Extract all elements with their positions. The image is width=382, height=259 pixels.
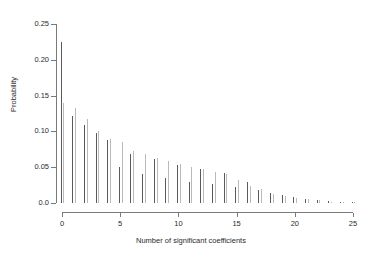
x-tick (178, 213, 179, 217)
x-tick-label: 15 (224, 219, 250, 228)
spike-bar (282, 195, 283, 203)
spike-bar (343, 202, 344, 203)
spike-bar (122, 142, 123, 203)
x-tick (120, 213, 121, 217)
spike-bar (133, 151, 134, 203)
spike-bar (340, 202, 341, 203)
x-axis-title: Number of significant coefficients (0, 236, 382, 245)
y-tick-label: 0.0 (18, 198, 49, 207)
spike-bar (258, 190, 259, 203)
x-tick (353, 213, 354, 217)
spike-bar (308, 199, 309, 203)
spike-bar (250, 186, 251, 203)
spike-bar (84, 125, 85, 203)
spike-bar (354, 202, 355, 203)
x-tick (237, 213, 238, 217)
y-tick-label: 0.10 (18, 126, 49, 135)
spike-bar (96, 133, 97, 203)
spike-bar (110, 139, 111, 203)
y-tick-label: 0.25 (18, 19, 49, 28)
chart-figure: 0510152025 0.00.050.100.150.200.25 Numbe… (0, 0, 382, 259)
spike-bar (317, 200, 318, 203)
spike-bar (168, 161, 169, 203)
x-tick (62, 213, 63, 217)
y-tick (51, 167, 56, 168)
spike-bar (87, 119, 88, 203)
spike-bar (142, 174, 143, 203)
spike-bar (296, 198, 297, 203)
spike-bar (224, 173, 225, 203)
y-tick-label: 0.15 (18, 91, 49, 100)
y-axis-title: Probability (9, 60, 18, 130)
spike-bar (247, 182, 248, 203)
spike-bar (328, 201, 329, 203)
spike-bar (177, 165, 178, 203)
x-tick-label: 25 (340, 219, 366, 228)
spike-bar (212, 184, 213, 203)
y-tick (51, 96, 56, 97)
spike-bar (203, 169, 204, 203)
spike-bar (107, 140, 108, 203)
spike-bar (180, 164, 181, 203)
x-tick-label: 10 (165, 219, 191, 228)
x-axis-line (62, 212, 353, 213)
spike-bar (145, 154, 146, 203)
spike-bar (319, 200, 320, 203)
x-tick-label: 5 (107, 219, 133, 228)
y-tick-label: 0.05 (18, 162, 49, 171)
spike-bar (226, 174, 227, 203)
spike-bar (235, 187, 236, 203)
spike-bar (189, 182, 190, 203)
spike-bar (130, 154, 131, 203)
spike-bar (293, 197, 294, 203)
spike-bar (119, 167, 120, 203)
spike-bar (98, 131, 99, 203)
spike-bar (273, 194, 274, 203)
spike-bar (61, 42, 62, 203)
y-tick-label: 0.20 (18, 55, 49, 64)
y-tick (51, 60, 56, 61)
y-tick (51, 24, 56, 25)
spike-bar (261, 189, 262, 203)
spike-bar (238, 180, 239, 203)
spike-bar (305, 199, 306, 203)
spike-bar (157, 158, 158, 203)
y-tick (51, 203, 56, 204)
spike-bar (270, 193, 271, 203)
spike-bar (72, 116, 73, 203)
x-tick (295, 213, 296, 217)
spike-bar (285, 196, 286, 203)
spike-bar (75, 108, 76, 203)
spike-bar (352, 202, 353, 203)
spike-bar (331, 202, 332, 203)
x-tick-label: 0 (49, 219, 75, 228)
spike-bar (63, 103, 64, 203)
x-tick-label: 20 (282, 219, 308, 228)
spike-bar (215, 172, 216, 204)
spike-bar (200, 169, 201, 203)
y-tick (51, 131, 56, 132)
spike-bar (154, 159, 155, 203)
spike-bar (165, 178, 166, 203)
plot-area (62, 24, 353, 203)
spike-bar (191, 167, 192, 203)
y-axis-line (56, 24, 57, 203)
